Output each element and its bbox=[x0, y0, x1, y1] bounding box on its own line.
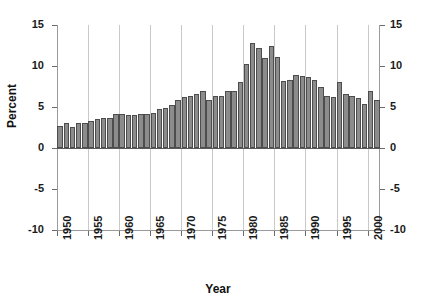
bar bbox=[144, 114, 149, 148]
bar bbox=[113, 114, 118, 148]
x-tick bbox=[57, 231, 58, 236]
x-tick bbox=[305, 231, 306, 236]
x-tick bbox=[337, 231, 338, 236]
y-tick-label-left: 5 bbox=[38, 101, 44, 112]
bar bbox=[293, 75, 298, 148]
bar bbox=[182, 97, 187, 148]
bar bbox=[138, 114, 143, 148]
bar bbox=[356, 98, 361, 148]
bar bbox=[175, 100, 180, 148]
y-axis-title: Percent bbox=[6, 84, 18, 128]
bar bbox=[269, 46, 274, 148]
bar bbox=[126, 115, 131, 148]
bar bbox=[188, 96, 193, 148]
x-tick bbox=[274, 231, 275, 236]
y-tick-label-left: -5 bbox=[34, 183, 44, 194]
y-tick-label-right: 5 bbox=[390, 101, 396, 112]
bar bbox=[300, 76, 305, 148]
bar bbox=[275, 57, 280, 148]
y-tick-label-right: -5 bbox=[390, 183, 400, 194]
bar bbox=[287, 80, 292, 148]
bar bbox=[169, 105, 174, 148]
bar bbox=[244, 64, 249, 148]
bar bbox=[163, 108, 168, 148]
bar bbox=[256, 48, 261, 148]
y-tick-right bbox=[380, 107, 385, 108]
y-tick-label-right: 15 bbox=[390, 19, 402, 30]
bar bbox=[213, 96, 218, 148]
bar bbox=[119, 114, 124, 148]
bar-chart: 151510105500-5-5-10-10 19501955196019651… bbox=[0, 0, 436, 303]
bar bbox=[225, 91, 230, 148]
bar bbox=[95, 119, 100, 148]
y-tick-label-right: -10 bbox=[390, 224, 406, 235]
bar bbox=[337, 82, 342, 148]
bar bbox=[200, 91, 205, 148]
bar bbox=[194, 94, 199, 148]
bar bbox=[231, 91, 236, 148]
y-tick-label-left: 0 bbox=[38, 142, 44, 153]
bar bbox=[374, 100, 379, 148]
y-tick-right bbox=[380, 25, 385, 26]
bar bbox=[368, 91, 373, 148]
plot-area bbox=[57, 25, 380, 230]
bar bbox=[157, 109, 162, 148]
bar bbox=[281, 81, 286, 148]
y-tick-label-left: 15 bbox=[32, 19, 44, 30]
y-tick-right bbox=[380, 189, 385, 190]
bar bbox=[306, 77, 311, 148]
x-tick bbox=[368, 231, 369, 236]
bar bbox=[349, 96, 354, 148]
bar bbox=[88, 121, 93, 148]
bar bbox=[250, 43, 255, 148]
bar bbox=[312, 80, 317, 148]
bar bbox=[262, 58, 267, 148]
x-tick bbox=[119, 231, 120, 236]
x-tick bbox=[243, 231, 244, 236]
bar bbox=[101, 118, 106, 148]
bar bbox=[57, 126, 62, 148]
bar bbox=[70, 127, 75, 148]
bar bbox=[331, 97, 336, 148]
bar bbox=[64, 123, 69, 148]
y-tick-right bbox=[380, 66, 385, 67]
bar bbox=[132, 115, 137, 148]
bar bbox=[343, 94, 348, 148]
bar bbox=[318, 87, 323, 149]
bar bbox=[362, 104, 367, 148]
bar bbox=[151, 113, 156, 148]
bar bbox=[324, 96, 329, 148]
zero-baseline bbox=[57, 148, 380, 149]
x-tick bbox=[212, 231, 213, 236]
bar bbox=[206, 100, 211, 148]
y-tick-label-right: 0 bbox=[390, 142, 396, 153]
y-tick-right bbox=[380, 148, 385, 149]
x-tick bbox=[181, 231, 182, 236]
y-tick-label-right: 10 bbox=[390, 60, 402, 71]
x-axis-title: Year bbox=[0, 283, 436, 295]
bar bbox=[238, 82, 243, 148]
x-tick bbox=[88, 231, 89, 236]
bar bbox=[219, 96, 224, 148]
y-tick-label-left: -10 bbox=[28, 224, 44, 235]
x-tick bbox=[150, 231, 151, 236]
bars-series bbox=[57, 25, 380, 230]
y-tick-label-left: 10 bbox=[32, 60, 44, 71]
bar bbox=[76, 123, 81, 148]
bar bbox=[82, 123, 87, 148]
bar bbox=[107, 118, 112, 148]
